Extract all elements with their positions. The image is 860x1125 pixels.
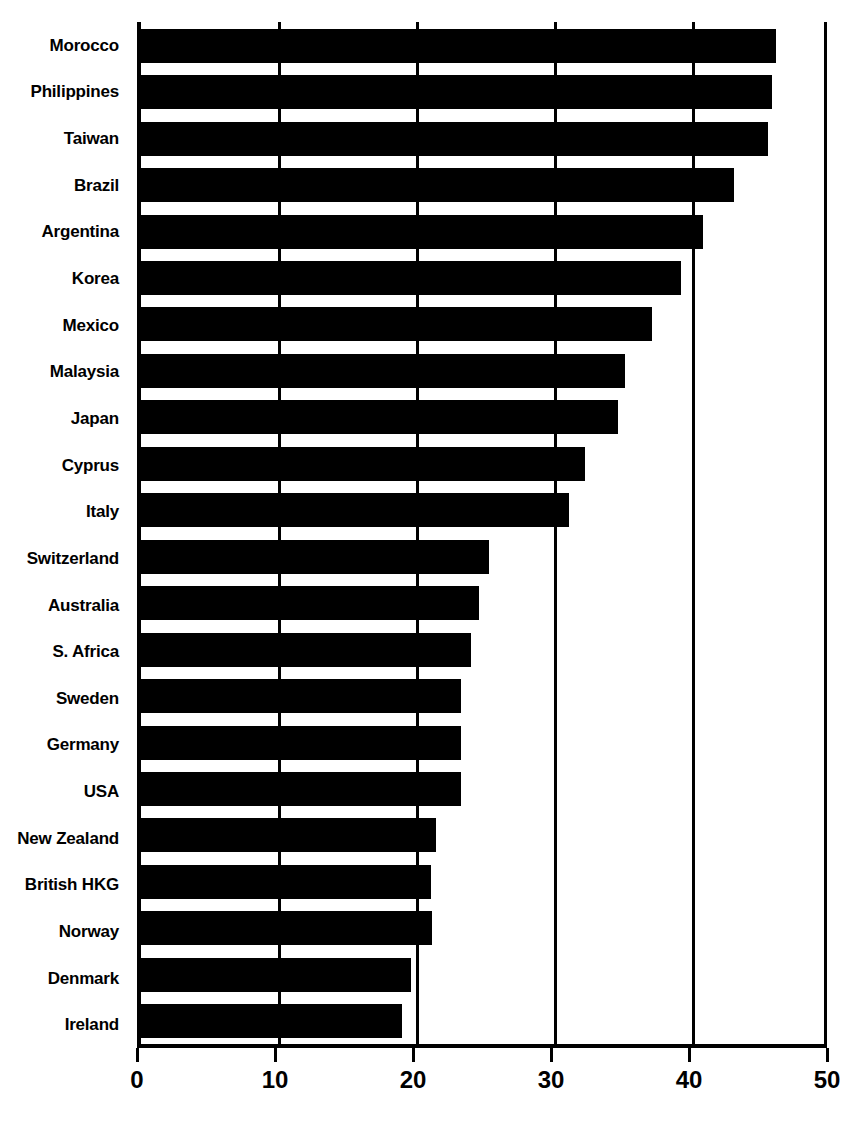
bar-row bbox=[141, 626, 824, 672]
x-axis-tick bbox=[826, 1048, 829, 1062]
y-axis-label: Germany bbox=[0, 722, 128, 769]
x-axis-tick bbox=[274, 1048, 277, 1062]
y-axis-label: USA bbox=[0, 768, 128, 815]
y-axis-label: Argentina bbox=[0, 209, 128, 256]
x-axis-tick-label: 20 bbox=[400, 1068, 427, 1092]
bar bbox=[141, 215, 703, 249]
bar bbox=[141, 865, 431, 899]
bar-row bbox=[141, 394, 824, 440]
bar bbox=[141, 168, 734, 202]
bar-chart: MoroccoPhilippinesTaiwanBrazilArgentinaK… bbox=[0, 0, 860, 1125]
y-axis-label: Malaysia bbox=[0, 348, 128, 395]
bar-row bbox=[141, 905, 824, 951]
y-axis-category-labels: MoroccoPhilippinesTaiwanBrazilArgentinaK… bbox=[0, 22, 128, 1048]
bar bbox=[141, 1004, 402, 1038]
plot-area bbox=[137, 22, 827, 1048]
bar-row bbox=[141, 858, 824, 904]
y-axis-label: Taiwan bbox=[0, 115, 128, 162]
y-axis-label: Ireland bbox=[0, 1001, 128, 1048]
y-axis-label: Morocco bbox=[0, 22, 128, 69]
bar-row bbox=[141, 254, 824, 300]
x-axis-tick bbox=[412, 1048, 415, 1062]
y-axis-label: Norway bbox=[0, 908, 128, 955]
bar bbox=[141, 726, 461, 760]
gridline bbox=[692, 22, 695, 1044]
bar bbox=[141, 400, 618, 434]
bar-row bbox=[141, 161, 824, 207]
y-axis-label: Switzerland bbox=[0, 535, 128, 582]
y-axis-label: Japan bbox=[0, 395, 128, 442]
bar bbox=[141, 958, 411, 992]
bar-series bbox=[141, 22, 824, 1044]
bar bbox=[141, 772, 461, 806]
bar-row bbox=[141, 115, 824, 161]
y-axis-label: Cyprus bbox=[0, 442, 128, 489]
y-axis-label: Philippines bbox=[0, 69, 128, 116]
bar-row bbox=[141, 579, 824, 625]
y-axis-label: S. Africa bbox=[0, 628, 128, 675]
bar bbox=[141, 29, 776, 63]
y-axis-label: Brazil bbox=[0, 162, 128, 209]
x-axis-tick-label: 0 bbox=[130, 1068, 143, 1092]
x-axis: 01020304050 bbox=[137, 1048, 827, 1108]
bar-row bbox=[141, 533, 824, 579]
y-axis-label: Sweden bbox=[0, 675, 128, 722]
y-axis-label: British HKG bbox=[0, 862, 128, 909]
gridline bbox=[278, 22, 281, 1044]
bar bbox=[141, 75, 772, 109]
bar-row bbox=[141, 765, 824, 811]
y-axis-label: Australia bbox=[0, 582, 128, 629]
bar bbox=[141, 122, 768, 156]
y-axis-label: Korea bbox=[0, 255, 128, 302]
bar bbox=[141, 633, 471, 667]
y-axis-label: Mexico bbox=[0, 302, 128, 349]
gridline bbox=[554, 22, 557, 1044]
bar-row bbox=[141, 347, 824, 393]
bar-row bbox=[141, 719, 824, 765]
bar bbox=[141, 261, 681, 295]
bar bbox=[141, 493, 569, 527]
bar-row bbox=[141, 951, 824, 997]
bar bbox=[141, 540, 489, 574]
bar-row bbox=[141, 812, 824, 858]
bar bbox=[141, 354, 625, 388]
bar-row bbox=[141, 301, 824, 347]
bar bbox=[141, 679, 461, 713]
y-axis-label: Denmark bbox=[0, 955, 128, 1002]
bar-row bbox=[141, 998, 824, 1044]
bar-row bbox=[141, 440, 824, 486]
bar-row bbox=[141, 208, 824, 254]
x-axis-tick-label: 30 bbox=[538, 1068, 565, 1092]
x-axis-tick-label: 10 bbox=[262, 1068, 289, 1092]
y-axis-label: New Zealand bbox=[0, 815, 128, 862]
bar bbox=[141, 307, 652, 341]
plot-inner bbox=[141, 22, 824, 1044]
bar bbox=[141, 586, 479, 620]
bar-row bbox=[141, 672, 824, 718]
x-axis-tick bbox=[550, 1048, 553, 1062]
y-axis-label: Italy bbox=[0, 488, 128, 535]
gridline bbox=[416, 22, 419, 1044]
bar-row bbox=[141, 487, 824, 533]
x-axis-tick bbox=[136, 1048, 139, 1062]
bar-row bbox=[141, 22, 824, 68]
x-axis-tick-label: 40 bbox=[676, 1068, 703, 1092]
bar bbox=[141, 447, 585, 481]
bar bbox=[141, 911, 432, 945]
x-axis-tick bbox=[688, 1048, 691, 1062]
bar bbox=[141, 818, 436, 852]
x-axis-tick-label: 50 bbox=[814, 1068, 841, 1092]
bar-row bbox=[141, 68, 824, 114]
